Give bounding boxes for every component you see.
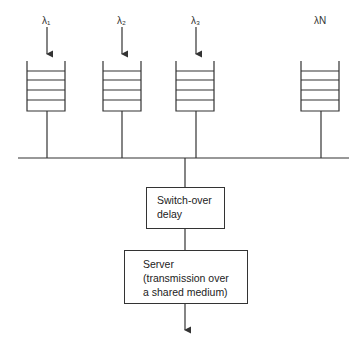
server-line2: (transmission over xyxy=(143,271,247,285)
queue-n xyxy=(301,61,339,158)
switch-over-line1: Switch-over xyxy=(157,193,224,207)
queue-1 xyxy=(27,61,65,158)
queue-2 xyxy=(103,61,141,158)
lambda-n-label: λN xyxy=(314,15,326,26)
server-box: Server (transmission over a shared mediu… xyxy=(124,250,248,304)
server-line3: a shared medium) xyxy=(143,285,247,299)
switch-over-line2: delay xyxy=(157,207,224,221)
lambda-2-label: λ₂ xyxy=(117,15,126,26)
server-line1: Server xyxy=(143,257,247,271)
queue-3 xyxy=(176,61,214,158)
lambda-3-label: λ₃ xyxy=(191,15,200,26)
switch-over-delay-box: Switch-over delay xyxy=(146,187,225,229)
lambda-1-label: λ₁ xyxy=(42,15,50,26)
